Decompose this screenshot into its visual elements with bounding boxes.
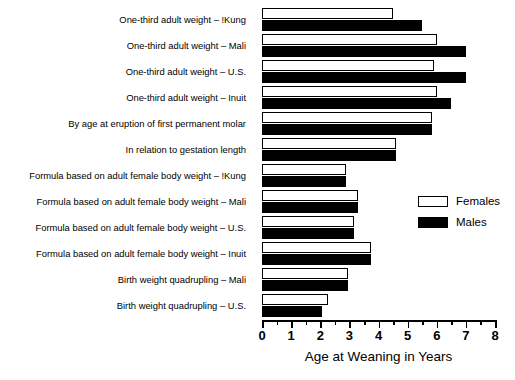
category-label: One-third adult weight – Mali: [0, 34, 252, 58]
x-axis-title: Age at Weaning in Years: [262, 349, 495, 364]
x-axis-minor-tick: [335, 320, 337, 325]
x-axis-tick-label: 3: [346, 328, 353, 343]
x-axis-minor-tick: [306, 320, 308, 325]
x-axis-major-tick: [379, 320, 381, 328]
category-labels-column: One-third adult weight – !KungOne-third …: [0, 8, 252, 320]
bar-females: [262, 294, 328, 305]
bar-females: [262, 268, 348, 279]
bar-group: [262, 8, 495, 32]
x-axis-major-tick: [291, 320, 293, 328]
category-label: Formula based on adult female body weigh…: [0, 164, 252, 188]
category-label: One-third adult weight – U.S.: [0, 60, 252, 84]
x-axis-minor-tick: [422, 320, 424, 325]
x-axis-major-tick: [466, 320, 468, 328]
bar-females: [262, 216, 354, 227]
bar-females: [262, 242, 371, 253]
legend-swatch-females-icon: [418, 196, 448, 207]
bar-females: [262, 8, 393, 19]
bar-group: [262, 294, 495, 318]
bar-males: [262, 72, 466, 83]
x-axis-major-tick: [408, 320, 410, 328]
bar-group: [262, 164, 495, 188]
x-axis-major-tick: [437, 320, 439, 328]
category-label: In relation to gestation length: [0, 138, 252, 162]
bar-males: [262, 20, 422, 31]
x-axis-major-tick: [320, 320, 322, 328]
bar-group: [262, 112, 495, 136]
bar-group: [262, 268, 495, 292]
x-axis-minor-tick: [364, 320, 366, 325]
category-label: Formula based on adult female body weigh…: [0, 242, 252, 266]
plot-area: [262, 8, 495, 320]
chart-legend: Females Males: [418, 192, 500, 234]
x-axis-tick-label: 4: [375, 328, 382, 343]
bar-males: [262, 98, 451, 109]
bar-females: [262, 190, 358, 201]
x-axis-minor-tick: [451, 320, 453, 325]
category-label: One-third adult weight – Inuit: [0, 86, 252, 110]
x-axis-minor-tick: [277, 320, 279, 325]
category-label: Formula based on adult female body weigh…: [0, 216, 252, 240]
bar-group: [262, 86, 495, 110]
bar-males: [262, 306, 322, 317]
bar-males: [262, 124, 432, 135]
x-axis-minor-tick: [480, 320, 482, 325]
bar-males: [262, 254, 371, 265]
bar-males: [262, 176, 346, 187]
bar-males: [262, 46, 466, 57]
bar-females: [262, 138, 396, 149]
bar-females: [262, 34, 437, 45]
category-label: By age at eruption of first permanent mo…: [0, 112, 252, 136]
weaning-age-bar-chart: One-third adult weight – !KungOne-third …: [0, 0, 515, 380]
category-label: Birth weight quadrupling – U.S.: [0, 294, 252, 318]
bar-females: [262, 112, 432, 123]
legend-label-females: Females: [456, 195, 500, 207]
category-label: One-third adult weight – !Kung: [0, 8, 252, 32]
bar-females: [262, 60, 434, 71]
x-axis-minor-tick: [393, 320, 395, 325]
bar-group: [262, 242, 495, 266]
x-axis-major-tick: [262, 320, 264, 328]
x-axis-tick-label: 7: [462, 328, 469, 343]
legend-swatch-males-icon: [418, 217, 448, 228]
bar-group: [262, 34, 495, 58]
legend-item-males: Males: [418, 213, 500, 231]
bar-group: [262, 60, 495, 84]
x-axis-major-tick: [495, 320, 497, 328]
bar-females: [262, 164, 346, 175]
legend-label-males: Males: [456, 216, 487, 228]
x-axis-tick-label: 8: [491, 328, 498, 343]
bar-males: [262, 228, 354, 239]
bar-females: [262, 86, 437, 97]
bar-group: [262, 138, 495, 162]
x-axis-major-tick: [349, 320, 351, 328]
bar-males: [262, 280, 348, 291]
x-axis-tick-label: 6: [433, 328, 440, 343]
legend-item-females: Females: [418, 192, 500, 210]
bar-males: [262, 202, 358, 213]
x-axis-tick-label: 1: [288, 328, 295, 343]
bar-males: [262, 150, 396, 161]
x-axis-tick-label: 5: [404, 328, 411, 343]
x-axis-tick-label: 2: [317, 328, 324, 343]
x-axis-tick-label: 0: [258, 328, 265, 343]
category-label: Formula based on adult female body weigh…: [0, 190, 252, 214]
category-label: Birth weight quadrupling – Mali: [0, 268, 252, 292]
